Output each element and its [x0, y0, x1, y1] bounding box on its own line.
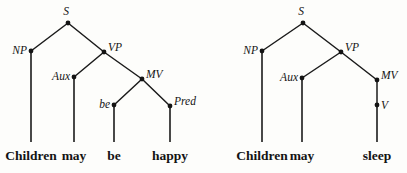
syntax-tree-figure: SNPVPAuxMVbePredChildrenmaybehappySNPVPA…: [0, 0, 407, 173]
tree-right-leaf-may: may: [290, 148, 315, 163]
tree-left-node-label-s: S: [63, 5, 69, 17]
tree-right-node-dot-np[interactable]: [260, 49, 265, 54]
tree-right-node-dot-aux[interactable]: [300, 76, 305, 81]
tree-right-node-dot-s[interactable]: [301, 21, 306, 26]
tree-diagram-canvas: SNPVPAuxMVbePredChildrenmaybehappySNPVPA…: [0, 0, 407, 173]
tree-left-node-dot-be[interactable]: [112, 103, 117, 108]
tree-left-node-label-mv: MV: [145, 68, 165, 80]
tree-right-branch-vp-to-aux: [302, 52, 341, 78]
tree-right-leaf-children: Children: [236, 148, 288, 163]
tree-right-node-label-v: V: [381, 99, 390, 111]
tree-left-branch-s-to-np: [31, 23, 68, 51]
tree-left-branch-vp-to-mv: [104, 52, 142, 79]
tree-left-node-label-vp: VP: [108, 41, 122, 53]
tree-left-branch-s-to-vp: [68, 23, 104, 52]
tree-left-branch-mv-to-pred: [142, 79, 170, 106]
tree-left-node-label-np: NP: [11, 44, 27, 56]
tree-right-leaf-sleep: sleep: [363, 148, 392, 163]
tree-left-leaf-children: Children: [5, 148, 57, 163]
tree-left-node-dot-vp[interactable]: [102, 50, 107, 55]
tree-left-leaf-may: may: [62, 148, 87, 163]
tree-left-node-dot-s[interactable]: [66, 21, 71, 26]
tree-right: SNPVPAuxMVVChildrenmaysleep: [236, 5, 399, 163]
tree-right-node-label-np: NP: [242, 44, 258, 56]
tree-left-leaf-happy: happy: [152, 148, 188, 163]
tree-left-node-label-be: be: [99, 98, 110, 110]
tree-left-node-dot-np[interactable]: [29, 49, 34, 54]
tree-right-node-dot-mv[interactable]: [375, 78, 380, 83]
tree-left-leaf-be: be: [107, 148, 121, 163]
tree-right-branch-vp-to-mv: [341, 52, 377, 80]
tree-right-node-label-s: S: [298, 5, 304, 17]
tree-left-node-label-pred: Pred: [173, 95, 196, 107]
tree-right-branch-s-to-vp: [303, 23, 341, 52]
tree-right-node-dot-v[interactable]: [375, 103, 380, 108]
tree-left-node-dot-pred[interactable]: [168, 104, 173, 109]
tree-right-node-dot-vp[interactable]: [339, 50, 344, 55]
tree-left-node-dot-aux[interactable]: [72, 75, 77, 80]
tree-left-branch-vp-to-aux: [74, 52, 104, 77]
tree-right-node-label-mv: MV: [380, 69, 400, 81]
tree-left: SNPVPAuxMVbePredChildrenmaybehappy: [5, 5, 196, 163]
tree-left-branch-mv-to-be: [114, 79, 142, 105]
tree-right-node-label-vp: VP: [345, 41, 359, 53]
tree-left-node-label-aux: Aux: [51, 70, 71, 82]
tree-right-node-label-aux: Aux: [279, 71, 299, 83]
tree-right-branch-s-to-np: [262, 23, 303, 51]
tree-left-node-dot-mv[interactable]: [140, 77, 145, 82]
